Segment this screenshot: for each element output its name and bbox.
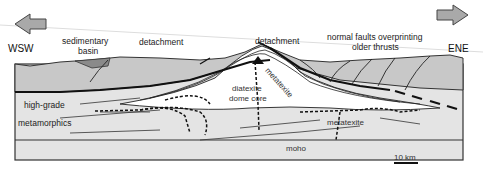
sedimentary-basin-label-2: basin xyxy=(78,47,98,56)
detachment-label-center: detachment xyxy=(255,37,299,46)
moho-label: moho xyxy=(286,144,306,153)
metatexite-right-label: metatexite xyxy=(327,118,364,127)
diatexite-label-2: dome core xyxy=(229,94,267,103)
sedimentary-basin-label-1: sedimentary xyxy=(62,37,108,46)
normal-faults-label-2: older thrusts xyxy=(352,43,399,52)
diatexite-label-1: diatexite xyxy=(232,84,262,93)
direction-west: WSW xyxy=(8,44,34,53)
east-arrow-icon xyxy=(437,5,468,25)
detachment-label-left: detachment xyxy=(139,38,183,47)
high-grade-label: high-grade xyxy=(24,101,65,110)
cross-section-diagram: WSW ENE sedimentary basin detachment det… xyxy=(0,0,483,171)
direction-east: ENE xyxy=(448,44,469,53)
metamorphics-label: metamorphics xyxy=(18,119,71,128)
normal-faults-label-1: normal faults overprinting xyxy=(327,33,422,42)
scale-bar-label: 10 km xyxy=(394,153,416,162)
west-arrow-icon xyxy=(15,14,46,34)
